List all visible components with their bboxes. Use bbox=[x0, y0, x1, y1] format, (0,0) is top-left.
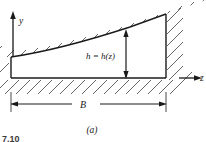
figure-caption: (a) bbox=[86, 125, 97, 136]
figure-number: 7.10 bbox=[2, 134, 20, 142]
y-axis-arrow bbox=[10, 11, 16, 57]
right-wall-hatching bbox=[167, 6, 192, 88]
width-dimension-line bbox=[10, 92, 167, 112]
gap-function-label: h = h(z) bbox=[86, 51, 115, 61]
y-axis-label: y bbox=[18, 16, 24, 26]
lower-wall-hatching bbox=[0, 80, 184, 94]
width-dimension-label: B bbox=[80, 99, 86, 110]
z-axis-label: z bbox=[199, 73, 204, 83]
wedge-diagram: y z h = h(z) B (a) 7.10 bbox=[0, 0, 206, 142]
left-corner-hatching bbox=[0, 63, 9, 72]
z-axis-arrow bbox=[179, 75, 202, 81]
figure-container: y z h = h(z) B (a) 7.10 bbox=[0, 0, 206, 142]
gap-height-arrow bbox=[123, 29, 128, 79]
